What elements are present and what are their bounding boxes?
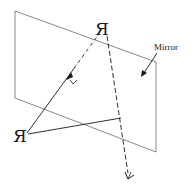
eye-icon bbox=[125, 172, 134, 179]
mirror-label: Mirror bbox=[154, 42, 178, 52]
mirror-reflection-diagram: Я Я Mirror bbox=[0, 0, 194, 188]
right-angle-mark-icon bbox=[70, 80, 77, 84]
mirror-label-arrow bbox=[144, 53, 157, 73]
real-object-glyph: Я bbox=[13, 128, 27, 145]
image-to-eye-dashed-line bbox=[107, 36, 128, 173]
mirror-plane bbox=[15, 11, 156, 152]
virtual-image-glyph: Я bbox=[95, 21, 109, 38]
mirror-arrowhead-icon bbox=[141, 70, 147, 77]
